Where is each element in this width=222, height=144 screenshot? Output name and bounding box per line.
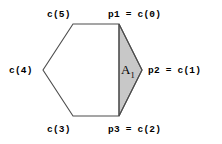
region-label-subscript: 1 bbox=[130, 70, 134, 80]
vertex-label-p3: p3 = c(2) bbox=[108, 124, 161, 135]
vertex-label-c4: c(4) bbox=[9, 65, 33, 76]
vertex-label-p1: p1 = c(0) bbox=[108, 9, 161, 20]
region-label-a1: A1 bbox=[121, 63, 135, 82]
vertex-label-c5: c(5) bbox=[47, 9, 71, 20]
vertex-label-p2: p2 = c(1) bbox=[148, 65, 201, 76]
region-label-base: A bbox=[121, 62, 130, 77]
geometry-figure: c(5) p1 = c(0) c(4) A1 p2 = c(1) c(3) p3… bbox=[0, 0, 222, 144]
vertex-label-c3: c(3) bbox=[47, 124, 71, 135]
